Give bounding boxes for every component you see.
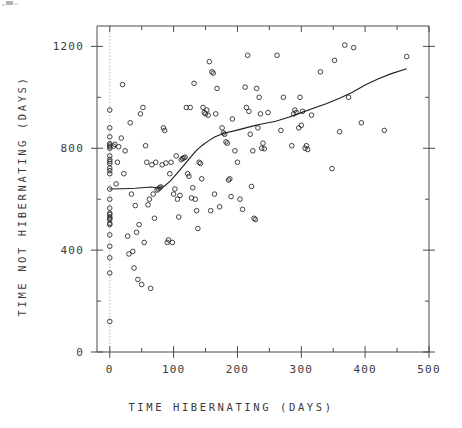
y-tick-label: 800	[61, 142, 84, 155]
y-axis-title: TIME NOT HIBERNATING (DAYS)	[16, 76, 28, 317]
x-tick-label: 300	[290, 363, 313, 376]
x-axis-title: TIME HIBERNATING (DAYS)	[128, 401, 333, 413]
x-tick-label: 0	[106, 363, 114, 376]
figure-canvas: 010020030040050004008001200 TIME HIBERNA…	[0, 0, 462, 428]
x-tick-label: 200	[226, 363, 249, 376]
x-tick-label: 500	[417, 363, 440, 376]
x-tick-label: 100	[162, 363, 185, 376]
y-tick-label: 0	[76, 346, 84, 359]
scatter-plot: 010020030040050004008001200 TIME HIBERNA…	[0, 0, 462, 428]
y-tick-label: 1200	[53, 40, 84, 53]
x-tick-label: 400	[353, 363, 376, 376]
y-tick-label: 400	[61, 244, 84, 257]
